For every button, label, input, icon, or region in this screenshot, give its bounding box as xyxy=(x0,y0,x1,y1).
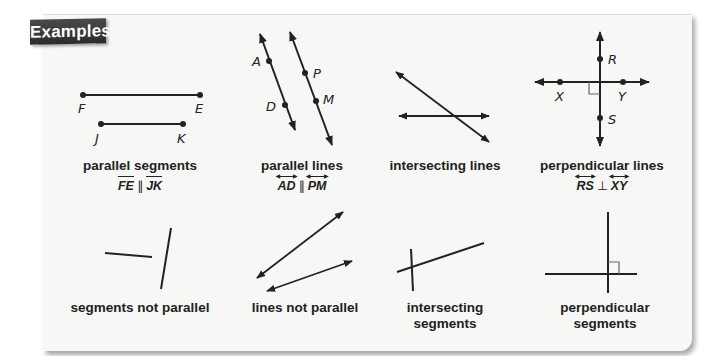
intersecting-segments-figure xyxy=(397,243,484,291)
point-label-y: Y xyxy=(618,89,627,104)
caption-intersecting-lines: intersecting lines xyxy=(385,158,505,174)
intersecting-lines-figure xyxy=(396,72,489,142)
point-label-k: K xyxy=(177,131,187,146)
notation-perpendicular-lines: ◀▶RS⊥◀▶XY xyxy=(540,178,664,193)
point-label-s: S xyxy=(608,112,616,127)
caption-line-1: perpendicular xyxy=(545,300,665,316)
caption-line-2: segments xyxy=(390,316,500,332)
caption-parallel-lines: parallel lines xyxy=(252,158,352,174)
caption-segments-not-parallel: segments not parallel xyxy=(70,300,210,316)
caption-line-2: segments xyxy=(545,316,665,332)
caption-lines-not-parallel: lines not parallel xyxy=(245,300,365,316)
point-label-f: F xyxy=(78,101,86,116)
perpendicular-segments-figure xyxy=(545,212,637,293)
point-label-j: J xyxy=(92,131,99,146)
point-label-r: R xyxy=(608,52,617,67)
notation-parallel-lines: ◀▶AD∥◀▶PM xyxy=(252,178,352,193)
point-label-p: P xyxy=(313,66,321,81)
notation-parallel-segments: FE∥JK xyxy=(80,178,200,193)
parallel-segments-figure: F E J K xyxy=(78,92,204,146)
segments-not-parallel-figure xyxy=(105,228,171,289)
caption-intersecting-segments: intersecting segments xyxy=(390,300,500,332)
point-label-x: X xyxy=(554,89,565,104)
caption-line-1: intersecting xyxy=(390,300,500,316)
parallel-lines-figure: A D P M xyxy=(251,32,334,145)
caption-parallel-segments: parallel segments xyxy=(80,158,200,174)
point-label-e: E xyxy=(195,101,204,116)
point-label-m: M xyxy=(323,92,334,107)
point-label-a: A xyxy=(251,54,261,69)
caption-perpendicular-segments: perpendicular segments xyxy=(545,300,665,332)
caption-perpendicular-lines: perpendicular lines xyxy=(540,158,664,174)
perpendicular-lines-figure: R S X Y xyxy=(535,32,649,146)
lines-not-parallel-figure xyxy=(257,212,352,291)
point-label-d: D xyxy=(266,99,276,114)
